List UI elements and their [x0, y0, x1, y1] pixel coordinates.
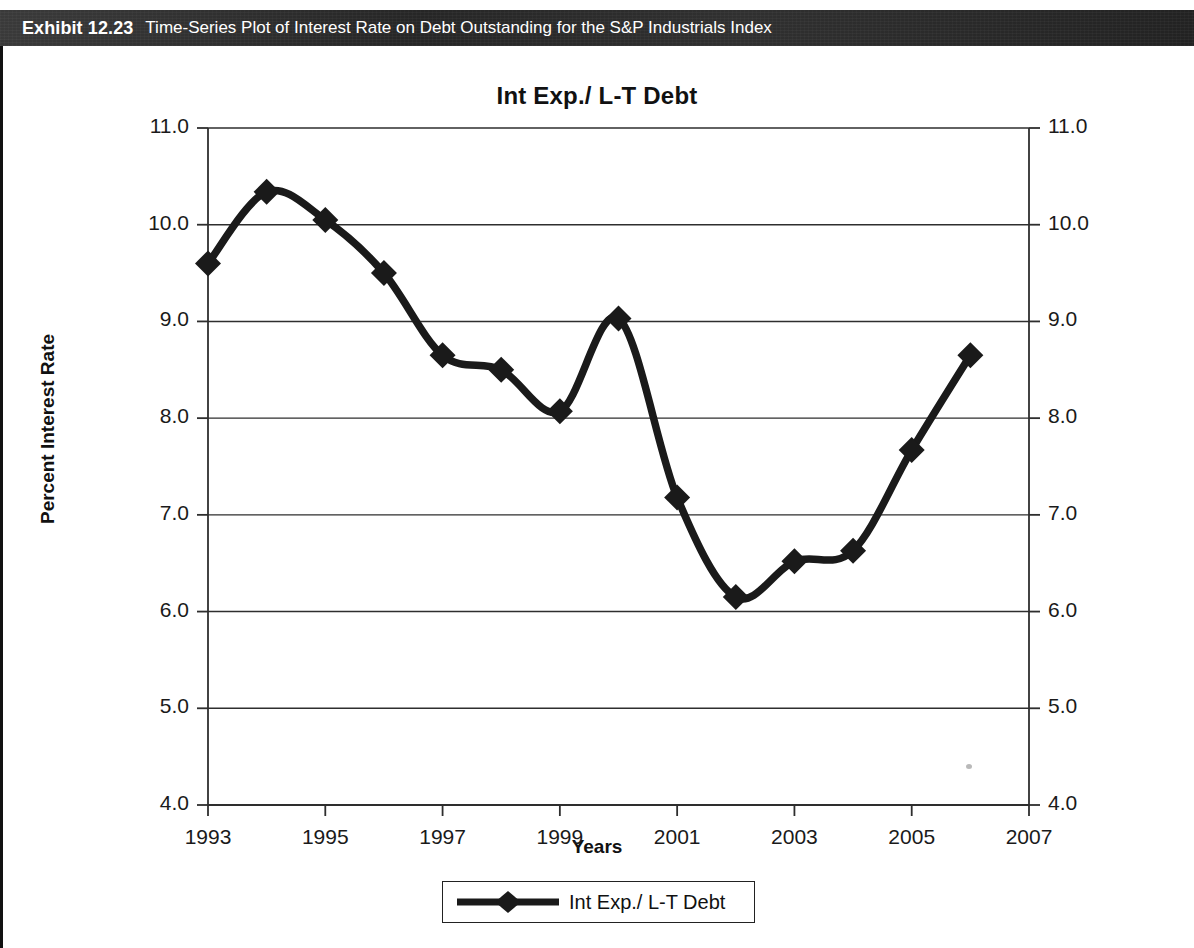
- y-tick-right-10.0: 10.0: [1048, 211, 1118, 235]
- data-markers: [195, 179, 983, 610]
- data-line-int-exp-lt-debt: [208, 190, 970, 599]
- x-tick-1997: 1997: [403, 825, 483, 849]
- page-top-margin: [0, 0, 1194, 10]
- y-tick-right-8.0: 8.0: [1048, 404, 1118, 428]
- y-tick-right-11.0: 11.0: [1048, 114, 1118, 138]
- y-tick-right-4.0: 4.0: [1048, 791, 1118, 815]
- page-artifact-speck: [966, 764, 972, 769]
- y-tick-left-8.0: 8.0: [119, 404, 189, 428]
- x-tick-1995: 1995: [285, 825, 365, 849]
- x-tick-1993: 1993: [168, 825, 248, 849]
- x-tick-2001: 2001: [637, 825, 717, 849]
- y-tick-right-5.0: 5.0: [1048, 694, 1118, 718]
- exhibit-header-bar: Exhibit 12.23 Time-Series Plot of Intere…: [0, 10, 1194, 46]
- x-tick-2003: 2003: [754, 825, 834, 849]
- y-tick-left-10.0: 10.0: [119, 211, 189, 235]
- y-tick-right-7.0: 7.0: [1048, 501, 1118, 525]
- legend-marker-diamond-icon: [453, 889, 563, 915]
- y-tick-left-4.0: 4.0: [119, 791, 189, 815]
- exhibit-title: Time-Series Plot of Interest Rate on Deb…: [145, 18, 772, 38]
- y-tick-left-11.0: 11.0: [119, 114, 189, 138]
- chart-legend: Int Exp./ L-T Debt: [442, 881, 755, 923]
- y-tick-left-6.0: 6.0: [119, 598, 189, 622]
- y-tick-right-9.0: 9.0: [1048, 307, 1118, 331]
- y-tick-left-7.0: 7.0: [119, 501, 189, 525]
- y-tick-left-9.0: 9.0: [119, 307, 189, 331]
- legend-label: Int Exp./ L-T Debt: [569, 891, 725, 914]
- x-tick-2005: 2005: [872, 825, 952, 849]
- chart-figure: Int Exp./ L-T Debt Percent Interest Rate…: [0, 46, 1194, 948]
- axis-ticks: [197, 128, 1040, 816]
- exhibit-number: Exhibit 12.23: [22, 18, 133, 39]
- x-tick-2007: 2007: [989, 825, 1069, 849]
- y-tick-left-5.0: 5.0: [119, 694, 189, 718]
- x-tick-1999: 1999: [520, 825, 600, 849]
- y-tick-right-6.0: 6.0: [1048, 598, 1118, 622]
